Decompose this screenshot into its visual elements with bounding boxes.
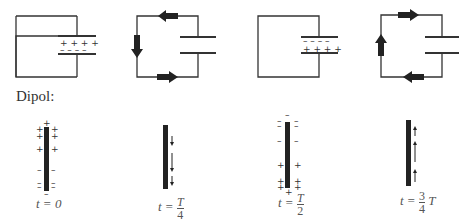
- svg-text:–: –: [51, 182, 56, 192]
- svg-text:– – – –: – – – –: [60, 45, 87, 55]
- caption-t-half: t = T 2: [278, 192, 304, 217]
- svg-text:+: +: [51, 144, 59, 154]
- circuit-2-current-arrows: [131, 10, 178, 83]
- svg-text:–: –: [51, 165, 56, 175]
- circuit-4: [381, 15, 459, 77]
- dipole-rod-4: [406, 120, 411, 186]
- svg-text:+: +: [51, 131, 59, 141]
- fraction-t-4: T 4: [177, 196, 184, 221]
- svg-text:+: +: [294, 160, 302, 170]
- svg-text:–: –: [37, 182, 42, 192]
- svg-text:+: +: [36, 131, 44, 141]
- dipole-heading: Dipol:: [16, 88, 54, 105]
- fraction-t-2: T 2: [297, 192, 304, 217]
- svg-text:+: +: [277, 160, 285, 170]
- circuit-2: [137, 16, 216, 77]
- caption-t-quarter-left: t =: [158, 199, 174, 214]
- svg-text:+ + + +: + + + +: [303, 44, 342, 54]
- fraction-3-4: 3 4: [419, 190, 425, 215]
- svg-text:–: –: [285, 110, 290, 120]
- svg-text:+: +: [36, 144, 44, 154]
- svg-text:–: –: [277, 136, 282, 146]
- circuit-3-charges: – – – – + + + +: [303, 36, 342, 54]
- caption-t0: t = 0: [36, 196, 61, 212]
- svg-text:+: +: [43, 118, 51, 128]
- svg-text:–: –: [277, 121, 282, 131]
- dipole-rod-1: [44, 127, 49, 191]
- dipole-rod-2: [163, 125, 168, 189]
- caption-t-half-left: t =: [278, 195, 294, 210]
- svg-text:–: –: [294, 136, 299, 146]
- svg-text:+: +: [277, 182, 285, 192]
- circuit-4-current-arrows: [375, 9, 424, 83]
- circuit-1-charges: + + + + – – – –: [60, 38, 99, 55]
- caption-t-three-quarter: t = 3 4 T: [400, 190, 435, 215]
- dipole-rod-3: [285, 122, 290, 188]
- caption-t-quarter: t = T 4: [158, 196, 184, 221]
- caption-t-three-quarter-left: t =: [400, 193, 416, 208]
- caption-t-three-quarter-right: T: [428, 193, 435, 208]
- svg-text:–: –: [37, 165, 42, 175]
- svg-text:–: –: [294, 121, 299, 131]
